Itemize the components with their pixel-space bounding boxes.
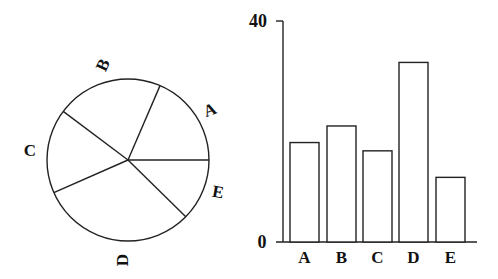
bar-d	[399, 62, 428, 242]
pie-divider	[128, 160, 186, 217]
pie-divider	[63, 111, 128, 160]
pie-label-b: B	[92, 56, 114, 74]
pie-label-c: C	[24, 141, 36, 160]
pie-label-a: A	[201, 99, 220, 121]
bar-a	[290, 143, 319, 242]
bar-chart: 40 0 ABCDE	[249, 11, 477, 267]
x-tick-label-a: A	[298, 248, 311, 267]
pie-divider	[54, 160, 128, 193]
chart-canvas: ABCDE 40 0 ABCDE	[0, 0, 498, 279]
bar-b	[327, 126, 356, 242]
x-tick-label-e: E	[445, 248, 456, 267]
bar-c	[363, 151, 392, 242]
bar-e	[436, 177, 465, 242]
x-tick-label-d: D	[407, 248, 419, 267]
pie-label-e: E	[211, 182, 225, 203]
x-tick-label-c: C	[371, 248, 383, 267]
y-tick-label-top: 40	[249, 11, 267, 31]
x-tick-label-b: B	[336, 248, 347, 267]
pie-label-d: D	[113, 254, 132, 266]
pie-divider	[128, 86, 160, 160]
y-tick-label-bottom: 0	[258, 232, 267, 252]
pie-chart: ABCDE	[24, 56, 225, 266]
